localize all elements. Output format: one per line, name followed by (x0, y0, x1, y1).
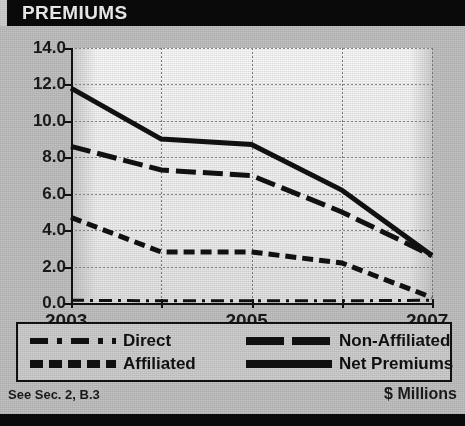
y-axis-tick-label: 6.0 (20, 185, 66, 202)
legend-item-affiliated: Affiliated (30, 355, 196, 373)
series-line-net-premiums (71, 88, 432, 256)
chart-panel: PREMIUMS 14.012.010.08.06.04.02.00.0 200… (0, 0, 465, 426)
chart-area: 14.012.010.08.06.04.02.00.0 200320052007 (0, 26, 465, 300)
legend-swatch-solid-icon (246, 360, 332, 368)
y-axis-tick-label: 14.0 (20, 39, 66, 56)
y-axis-tick-label: 4.0 (20, 221, 66, 238)
legend-label: Affiliated (123, 355, 196, 373)
legend-item-net-premiums: Net Premiums (246, 355, 453, 373)
series-line-direct (71, 300, 432, 301)
legend-label: Non-Affiliated (339, 332, 450, 350)
panel-header: PREMIUMS (0, 0, 465, 26)
y-axis-tick-label: 8.0 (20, 148, 66, 165)
y-axis-tick-label: 10.0 (20, 112, 66, 129)
legend-swatch-long-dash-icon (246, 337, 332, 345)
units-label: $ Millions (384, 385, 457, 403)
header-left-edge (0, 0, 7, 26)
legend-label: Net Premiums (339, 355, 453, 373)
legend-swatch-dashed-icon (30, 360, 116, 368)
panel-footer: See Sec. 2, B.3 $ Millions (0, 382, 465, 414)
legend-item-non-affiliated: Non-Affiliated (246, 332, 450, 350)
legend-item-direct: Direct (30, 332, 171, 350)
chart-legend: Direct Non-Affiliated Affiliated Net Pre… (16, 322, 452, 382)
legend-swatch-dash-dot-icon (30, 338, 116, 344)
bottom-bar (0, 414, 465, 426)
y-axis-tick-label: 0.0 (20, 294, 66, 311)
y-axis-tick-label: 2.0 (20, 258, 66, 275)
y-axis-labels: 14.012.010.08.06.04.02.00.0 (12, 48, 66, 304)
source-note: See Sec. 2, B.3 (8, 387, 100, 402)
y-axis-tick-label: 12.0 (20, 75, 66, 92)
page-title: PREMIUMS (22, 1, 128, 25)
legend-label: Direct (123, 332, 171, 350)
x-axis-tick (432, 299, 434, 308)
gridline-vertical (432, 48, 433, 303)
series-layer (71, 48, 432, 304)
series-line-affiliated (71, 217, 432, 297)
